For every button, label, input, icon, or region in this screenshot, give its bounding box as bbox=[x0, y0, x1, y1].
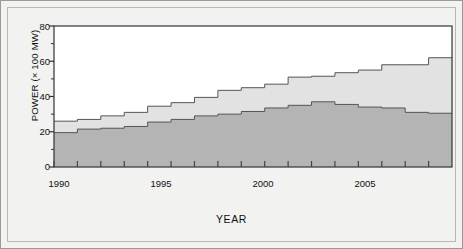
figure-inner-border: POWER (× 100 MW) YEAR 80 60 40 20 0 1990… bbox=[7, 7, 456, 242]
figure-container: POWER (× 100 MW) YEAR 80 60 40 20 0 1990… bbox=[0, 0, 463, 249]
chart-plot-area bbox=[8, 8, 459, 245]
